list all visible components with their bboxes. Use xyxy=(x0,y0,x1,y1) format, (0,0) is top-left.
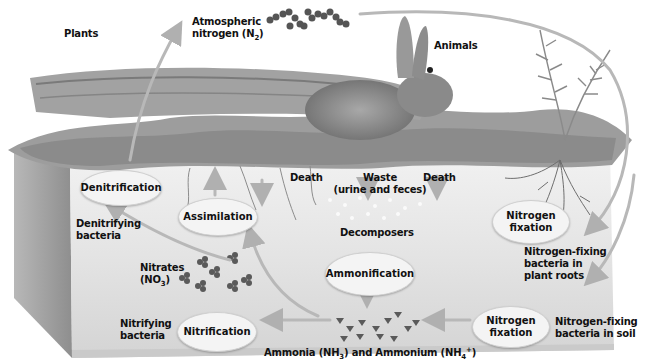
ammonium-close: ) xyxy=(472,347,476,358)
denitrification-label: Denitrification xyxy=(80,182,161,194)
no3-text: (NO xyxy=(140,274,161,285)
no3-close: ) xyxy=(166,274,170,285)
label-fixing-roots-line3: plant roots xyxy=(524,270,607,282)
label-fixing-bacteria-roots: Nitrogen-fixing bacteria in plant roots xyxy=(524,246,607,282)
label-waste-line2: (urine and feces) xyxy=(330,184,430,196)
label-denitrifying-line2: bacteria xyxy=(76,230,141,242)
process-ammonification: Ammonification xyxy=(325,252,415,296)
label-fixing-roots-line2: bacteria in xyxy=(524,258,607,270)
assimilation-label: Assimilation xyxy=(183,211,252,223)
label-death-right: Death xyxy=(423,172,456,184)
label-nitrifying-bacteria: Nitrifying bacteria xyxy=(120,318,172,342)
fixation-soil-line1: Nitrogen xyxy=(486,315,535,327)
fixation-soil-line2: fixation xyxy=(486,327,535,339)
label-nitrates: Nitrates (NO3) xyxy=(140,262,184,290)
label-fixing-soil-line1: Nitrogen-fixing xyxy=(555,316,638,328)
label-atmospheric-nitrogen: Atmospheric nitrogen (N2) xyxy=(192,16,263,44)
ammonium-text: ) and Ammonium (NH xyxy=(344,347,461,358)
n2-close: ) xyxy=(259,28,263,39)
process-nitrogen-fixation-soil: Nitrogen fixation xyxy=(472,306,550,348)
label-nitrifying-line1: Nitrifying xyxy=(120,318,172,330)
label-fixing-soil-line2: bacteria in soil xyxy=(555,328,638,340)
label-atmospheric-line2: nitrogen (N2) xyxy=(192,28,263,44)
label-atmospheric-line1: Atmospheric xyxy=(192,16,263,28)
label-plants: Plants xyxy=(64,28,98,40)
label-ammonia-ammonium: Ammonia (NH3) and Ammonium (NH4+) xyxy=(264,344,476,363)
label-fixing-bacteria-soil: Nitrogen-fixing bacteria in soil xyxy=(555,316,638,340)
label-nitrates-line1: Nitrates xyxy=(140,262,184,274)
process-assimilation: Assimilation xyxy=(178,198,258,236)
label-denitrifying-bacteria: Denitrifying bacteria xyxy=(76,218,141,242)
process-denitrification: Denitrification xyxy=(80,170,162,206)
nh4-subscript: 4 xyxy=(461,353,466,361)
label-nitrifying-line2: bacteria xyxy=(120,330,172,342)
label-decomposers: Decomposers xyxy=(340,227,414,239)
n2-text: nitrogen (N xyxy=(192,28,254,39)
nitrification-label: Nitrification xyxy=(183,326,250,338)
fixation-roots-line2: fixation xyxy=(506,222,555,234)
nitrogen-cycle-diagram: Plants Atmospheric nitrogen (N2) Animals… xyxy=(0,0,652,364)
label-fixing-roots-line1: Nitrogen-fixing xyxy=(524,246,607,258)
process-nitrogen-fixation-roots: Nitrogen fixation xyxy=(492,200,570,244)
label-waste-line1: Waste xyxy=(330,172,430,184)
label-death-left: Death xyxy=(290,172,323,184)
label-waste: Waste (urine and feces) xyxy=(330,172,430,196)
soil-block-side xyxy=(14,150,72,358)
label-animals: Animals xyxy=(434,40,477,52)
process-nitrification: Nitrification xyxy=(177,312,257,352)
label-denitrifying-line1: Denitrifying xyxy=(76,218,141,230)
ammonia-text: Ammonia (NH xyxy=(264,347,339,358)
nitrogen-molecules xyxy=(267,9,350,30)
label-nitrates-line2: (NO3) xyxy=(140,274,184,290)
fixation-roots-line1: Nitrogen xyxy=(506,210,555,222)
ammonification-label: Ammonification xyxy=(326,268,414,280)
